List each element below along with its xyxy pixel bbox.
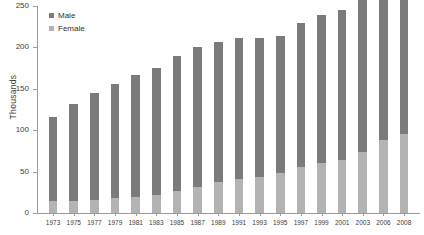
bar-segment-male xyxy=(49,117,58,201)
bar-segment-female xyxy=(111,198,120,213)
stacked-bar xyxy=(69,104,78,213)
stacked-bar-chart: Thousands 050100150200250 19731975197719… xyxy=(0,0,424,235)
x-tick-mark xyxy=(260,213,261,216)
bar-segment-male xyxy=(152,68,161,195)
x-tick-mark xyxy=(301,213,302,216)
x-tick-mark xyxy=(136,213,137,216)
stacked-bar xyxy=(193,47,202,213)
bar-segment-female xyxy=(173,191,182,213)
x-tick-label: 2001 xyxy=(335,219,349,226)
x-tick-mark xyxy=(322,213,323,216)
x-tick-mark xyxy=(53,213,54,216)
bar-segment-female xyxy=(317,163,326,213)
bar-segment-female xyxy=(131,197,140,213)
stacked-bar xyxy=(297,23,306,213)
x-tick-label: 1981 xyxy=(128,219,142,226)
bar-segment-male xyxy=(379,0,388,140)
y-tick-label: 150 xyxy=(5,84,29,93)
x-tick-label: 1995 xyxy=(273,219,287,226)
bar-segment-female xyxy=(400,134,409,213)
bar-segment-female xyxy=(193,187,202,213)
y-tick-label: 100 xyxy=(5,125,29,134)
bar-segment-male xyxy=(131,75,140,198)
plot-area: 050100150200250 197319751977197919811983… xyxy=(37,6,420,213)
bar-segment-male xyxy=(358,0,367,152)
bar-segment-female xyxy=(152,195,161,213)
x-tick-label: 2008 xyxy=(397,219,411,226)
bar-segment-female xyxy=(379,140,388,213)
x-tick-mark xyxy=(218,213,219,216)
y-tick-label: 0 xyxy=(5,208,29,217)
y-tick-mark xyxy=(33,130,37,131)
bar-segment-female xyxy=(235,179,244,213)
x-tick-label: 1979 xyxy=(108,219,122,226)
bar-segment-male xyxy=(173,56,182,191)
bar-segment-female xyxy=(49,201,58,213)
y-tick-mark xyxy=(33,213,37,214)
x-tick-mark xyxy=(280,213,281,216)
x-tick-mark xyxy=(94,213,95,216)
bar-segment-male xyxy=(317,15,326,163)
x-tick-label: 1991 xyxy=(232,219,246,226)
y-tick-mark xyxy=(33,172,37,173)
bar-segment-female xyxy=(297,167,306,213)
x-tick-label: 1989 xyxy=(211,219,225,226)
bar-segment-male xyxy=(69,104,78,201)
stacked-bar xyxy=(338,10,347,213)
legend-label: Male xyxy=(58,11,75,20)
y-tick-label: 250 xyxy=(5,1,29,10)
x-tick-mark xyxy=(198,213,199,216)
stacked-bar xyxy=(317,15,326,213)
stacked-bar xyxy=(255,38,264,213)
legend-item: Female xyxy=(49,22,85,35)
bar-segment-male xyxy=(338,10,347,160)
x-tick-mark xyxy=(177,213,178,216)
bar-segment-male xyxy=(400,0,409,134)
x-tick-mark xyxy=(404,213,405,216)
bar-segment-male xyxy=(297,23,306,168)
x-tick-label: 1999 xyxy=(314,219,328,226)
x-tick-mark xyxy=(363,213,364,216)
stacked-bar xyxy=(214,42,223,213)
bar-segment-female xyxy=(255,177,264,213)
stacked-bar xyxy=(276,36,285,213)
x-tick-label: 1973 xyxy=(46,219,60,226)
chart-legend: MaleFemale xyxy=(49,9,85,35)
x-tick-mark xyxy=(74,213,75,216)
stacked-bar xyxy=(400,0,409,213)
stacked-bar xyxy=(49,117,58,213)
y-tick-label: 50 xyxy=(5,167,29,176)
bar-segment-female xyxy=(90,200,99,213)
x-tick-label: 1985 xyxy=(170,219,184,226)
bar-segment-male xyxy=(111,84,120,198)
y-tick-mark xyxy=(33,89,37,90)
stacked-bar xyxy=(152,68,161,213)
x-tick-mark xyxy=(115,213,116,216)
bar-segment-male xyxy=(214,42,223,182)
bar-segment-male xyxy=(90,93,99,200)
legend-swatch-icon xyxy=(49,13,54,18)
x-tick-label: 2006 xyxy=(376,219,390,226)
bar-segment-female xyxy=(69,201,78,213)
legend-item: Male xyxy=(49,9,85,22)
x-tick-label: 1993 xyxy=(252,219,266,226)
legend-label: Female xyxy=(58,24,85,33)
x-tick-label: 1977 xyxy=(87,219,101,226)
x-tick-mark xyxy=(383,213,384,216)
x-tick-mark xyxy=(156,213,157,216)
stacked-bar xyxy=(111,84,120,213)
stacked-bar xyxy=(173,56,182,213)
bar-segment-female xyxy=(214,182,223,213)
y-tick-mark xyxy=(33,6,37,7)
x-tick-label: 1975 xyxy=(67,219,81,226)
bar-segment-female xyxy=(338,160,347,213)
y-tick-mark xyxy=(33,47,37,48)
legend-swatch-icon xyxy=(49,26,54,31)
bar-segment-male xyxy=(255,38,264,176)
bar-segment-male xyxy=(193,47,202,187)
x-tick-label: 2003 xyxy=(356,219,370,226)
bar-segment-male xyxy=(235,38,244,179)
stacked-bar xyxy=(358,0,367,213)
y-tick-label: 200 xyxy=(5,42,29,51)
y-axis-line xyxy=(37,6,38,213)
